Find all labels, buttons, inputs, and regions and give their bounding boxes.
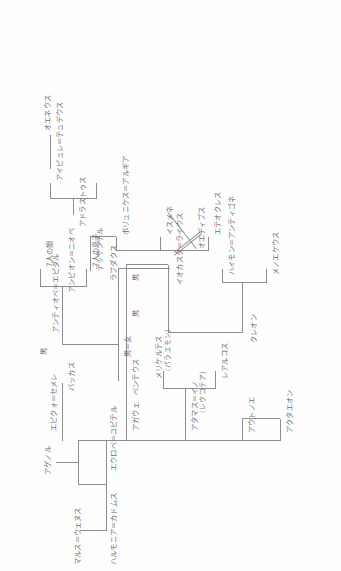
line-oeneus-to-tydeus [50, 135, 51, 169]
line-branch-actaeon [280, 419, 281, 441]
line-branch-ismene [160, 237, 161, 251]
line-creon-spine [168, 265, 169, 333]
node-leucothea: （レウコテア） [200, 367, 207, 417]
line-branch-eteocles [208, 237, 209, 251]
line-mars-to-harmonia [80, 530, 106, 531]
node-male-1: 男 [132, 310, 140, 317]
line-agenor-right-drop [78, 440, 106, 441]
line-branch-agaue [126, 419, 127, 441]
node-epiclo-semele: エピクォ＝セメレ [50, 373, 58, 431]
chart-canvas: マルス＝ウェヌス ハルモニア＝カドムス アゲノル エウロペ＝ユピテル アクタエオ… [0, 0, 341, 571]
node-autonoe: アウトノエ [248, 397, 256, 433]
node-europa-jupiter: エウロペ＝ユピテル [110, 406, 118, 471]
node-adrastus: アドラストゥス [79, 177, 87, 227]
line-branch-menoeceus [266, 269, 267, 283]
line-athamas-children-rail [163, 388, 215, 389]
node-male-3: 男 [40, 348, 48, 355]
line-branch-antiope [62, 323, 63, 345]
line-antiope-to-amphion [62, 287, 63, 323]
line-male-female-rail [62, 344, 118, 345]
node-bacchus: バッカス [68, 362, 76, 391]
line-branch-haemon [222, 269, 223, 283]
line-semele-to-bacchus [62, 383, 63, 419]
node-menoeceus: メノエケウス [272, 232, 280, 275]
node-eteocles: エテオクレス [214, 192, 222, 235]
line-branch-argia [96, 183, 97, 199]
line-creon-children-rail [222, 282, 266, 283]
line-harmonia-cadmus-spine [106, 441, 107, 531]
line-branch-athamas-ino [185, 419, 186, 441]
line-agenor-stem [56, 462, 78, 463]
line-mf-left [118, 345, 119, 381]
node-male-female: 男＝女 [124, 335, 132, 357]
node-seven-daughters: 7人の娘 [46, 241, 54, 267]
line-agenor-left-drop [78, 484, 106, 485]
line-branch-aigialeia [50, 183, 51, 199]
line-labdacus-line [118, 269, 119, 345]
node-amphion-niobe: アンピオン＝ニオベ [68, 228, 76, 293]
node-labdacus: ラブダクス [110, 245, 118, 281]
node-actaeon: アクタエオン [286, 390, 294, 433]
node-polyneices-argia: ポリュニケス＝アルギア [122, 156, 130, 235]
line-cadmus-children-rail [106, 440, 280, 441]
line-male-chain-drop [126, 264, 168, 265]
node-pentheus: ペンテウス [132, 359, 140, 395]
line-branch-seven-daughters [40, 269, 41, 287]
line-creon-to-children [242, 283, 243, 333]
node-athamas-ino: アタマス＝イノ [191, 381, 199, 431]
node-thersander: テッサンデル [96, 228, 104, 271]
node-haemon-antigone: ハイモン＝アンティゴネ [228, 196, 236, 275]
genealogy-chart-page: マルス＝ウェヌス ハルモニア＝カドムス アゲノル エウロペ＝ユピテル アクタエオ… [0, 0, 341, 571]
node-agaue: アガウェ [132, 402, 140, 431]
line-branch-autonoe [242, 419, 243, 441]
line-adrastus-stem [73, 199, 74, 215]
node-learchus: レアルコス [221, 343, 229, 379]
node-creon: クレオン [250, 314, 258, 343]
node-harmonia-cadmus: ハルモニア＝カドムス [110, 493, 118, 565]
line-labdacus-to-iocasta [118, 268, 170, 269]
line-pentheus-descent [126, 265, 127, 381]
line-agenor-crossbar [78, 441, 79, 485]
line-creon-drop [168, 332, 242, 333]
node-aigialeia-tydeus: アイピュレ＝テュデウス [56, 102, 64, 181]
line-branch-learchus [215, 371, 216, 389]
node-male-2: 男 [132, 274, 140, 281]
node-agenor: アゲノル [44, 446, 52, 475]
node-ismene: イスメネ [166, 206, 174, 235]
line-athamas-stem [185, 389, 186, 419]
node-mars-venus: マルス＝ウェヌス [74, 507, 82, 565]
line-agaue-to-pentheus [126, 381, 127, 419]
node-oedipus: オエディプス [198, 207, 206, 249]
node-palaemon: （パラエモン） [165, 325, 172, 375]
line-branch-semele [62, 419, 63, 441]
node-iocasta-laius: イオカスタ＝ライウス [176, 213, 184, 285]
line-branch-seven-sons [86, 269, 87, 287]
line-oedipus-children-rail [116, 250, 208, 251]
node-oeneus: オエネウス [44, 95, 52, 131]
node-melicertes: メリケルテス [155, 336, 163, 379]
line-amphion-children-rail [40, 286, 86, 287]
